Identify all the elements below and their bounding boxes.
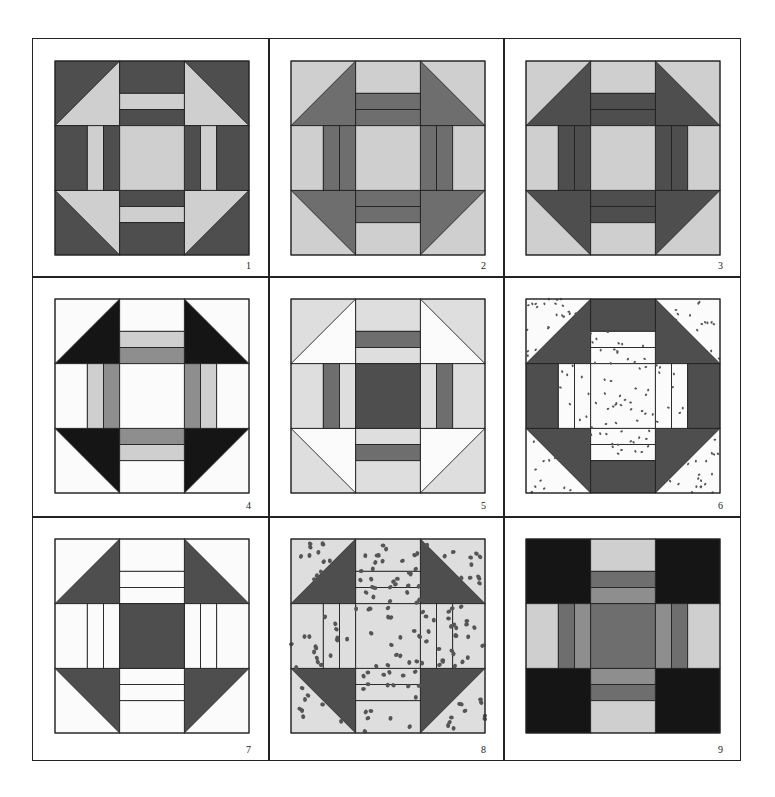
quilt-cell-5: 5 bbox=[269, 277, 504, 517]
quilt-cell-8: 8 bbox=[269, 517, 504, 761]
block-number: 2 bbox=[481, 260, 486, 271]
quilt-cell-9: 9 bbox=[504, 517, 741, 761]
quilt-cell-1: 1 bbox=[33, 39, 269, 277]
block-number: 6 bbox=[718, 500, 723, 511]
quilt-block-2 bbox=[291, 61, 485, 255]
block-number: 3 bbox=[718, 260, 723, 271]
quilt-cell-3: 3 bbox=[504, 39, 741, 277]
quilt-cell-7: 7 bbox=[33, 517, 269, 761]
quilt-block-4 bbox=[55, 299, 249, 493]
block-number: 8 bbox=[481, 744, 486, 755]
quilt-cell-2: 2 bbox=[269, 39, 504, 277]
quilt-block-7 bbox=[55, 539, 249, 733]
quilt-block-1 bbox=[55, 61, 249, 255]
block-number: 9 bbox=[718, 744, 723, 755]
block-number: 7 bbox=[246, 744, 251, 755]
quilt-block-9 bbox=[526, 539, 720, 733]
quilt-cell-6: 6 bbox=[504, 277, 741, 517]
block-number: 5 bbox=[481, 500, 486, 511]
quilt-cell-4: 4 bbox=[33, 277, 269, 517]
block-number: 1 bbox=[246, 260, 251, 271]
block-number: 4 bbox=[246, 500, 251, 511]
quilt-block-5 bbox=[291, 299, 485, 493]
quilt-block-8 bbox=[291, 539, 485, 733]
quilt-block-3 bbox=[526, 61, 720, 255]
quilt-block-6 bbox=[526, 299, 720, 493]
